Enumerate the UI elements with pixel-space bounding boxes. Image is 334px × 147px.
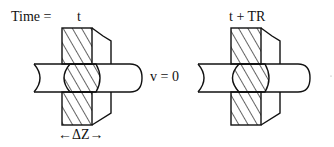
time-right-label: t + TR — [229, 10, 265, 24]
velocity-label: v = 0 — [150, 70, 179, 84]
left-rod — [34, 64, 142, 92]
right-upper-slice — [231, 28, 280, 64]
left-lower-slice — [62, 92, 111, 125]
left-upper-slice — [62, 28, 111, 64]
right-rod — [198, 64, 310, 92]
delta-z-label: ←ΔZ→ — [58, 128, 104, 142]
right-lower-slice — [231, 92, 280, 125]
time-left-label: t — [77, 10, 81, 24]
stray-mark — [330, 75, 331, 76]
left-panel — [34, 28, 142, 125]
time-prefix-label: Time = — [11, 10, 51, 24]
right-panel — [198, 28, 310, 125]
